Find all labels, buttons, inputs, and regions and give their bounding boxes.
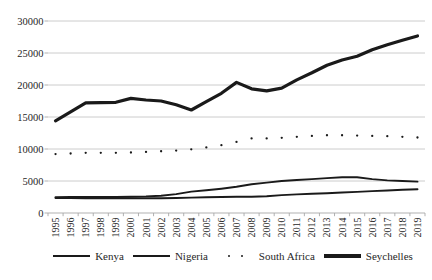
x-axis-label: 2003 bbox=[171, 218, 182, 238]
y-axis-label: 20000 bbox=[17, 80, 43, 91]
x-axis-label: 2010 bbox=[276, 218, 287, 238]
series-south-africa-dot bbox=[416, 136, 418, 138]
y-axis-label: 15000 bbox=[17, 112, 43, 123]
series-south-africa-dot bbox=[130, 151, 132, 153]
south-africa-line-swatch-icon bbox=[217, 254, 254, 258]
y-axis-label: 5000 bbox=[23, 176, 44, 187]
series-south-africa-dot bbox=[175, 149, 177, 151]
series-seychelles-line bbox=[56, 36, 418, 121]
x-axis-label: 2012 bbox=[306, 218, 317, 238]
legend-label-seychelles: Seychelles bbox=[366, 250, 413, 262]
x-axis-label: 1996 bbox=[65, 218, 76, 238]
legend-item-seychelles: Seychelles bbox=[324, 250, 413, 262]
x-axis-label: 1999 bbox=[110, 218, 121, 238]
x-axis-label: 2011 bbox=[291, 218, 302, 238]
series-south-africa-dot bbox=[341, 134, 343, 136]
series-south-africa-dot bbox=[235, 141, 237, 143]
x-axis-label: 1995 bbox=[50, 218, 61, 238]
legend-item-nigeria: Nigeria bbox=[133, 250, 208, 262]
series-south-africa-dot bbox=[85, 152, 87, 154]
series-south-africa-dot bbox=[326, 134, 328, 136]
x-axis-label: 2009 bbox=[261, 218, 272, 238]
series-south-africa-dot bbox=[356, 134, 358, 136]
line-chart-canvas: 0500010000150002000025000300001995199619… bbox=[0, 0, 432, 280]
series-south-africa-dot bbox=[69, 152, 71, 154]
x-axis-label: 2006 bbox=[216, 218, 227, 238]
series-south-africa-dot bbox=[100, 152, 102, 154]
x-axis-label: 2002 bbox=[156, 218, 167, 238]
line-chart: 0500010000150002000025000300001995199619… bbox=[0, 0, 432, 280]
series-south-africa-dot bbox=[311, 135, 313, 137]
series-south-africa-dot bbox=[190, 148, 192, 150]
x-axis-label: 2007 bbox=[231, 218, 242, 238]
series-south-africa-dot bbox=[386, 135, 388, 137]
legend-label-nigeria: Nigeria bbox=[175, 250, 208, 262]
legend-item-kenya: Kenya bbox=[53, 250, 124, 262]
series-nigeria-line bbox=[56, 177, 418, 197]
x-axis-label: 2008 bbox=[246, 218, 257, 238]
x-axis-label: 2017 bbox=[382, 218, 393, 238]
series-south-africa-dot bbox=[205, 146, 207, 148]
series-south-africa-dot bbox=[160, 150, 162, 152]
x-axis-label: 2018 bbox=[397, 218, 408, 238]
x-axis-label: 2004 bbox=[186, 218, 197, 238]
seychelles-line-swatch-icon bbox=[324, 254, 361, 258]
kenya-line-swatch-icon bbox=[53, 255, 90, 257]
x-axis-label: 2000 bbox=[125, 218, 136, 238]
y-axis-label: 30000 bbox=[17, 16, 43, 27]
series-south-africa-dot bbox=[250, 137, 252, 139]
nigeria-line-swatch-icon bbox=[133, 255, 170, 257]
series-south-africa-dot bbox=[266, 137, 268, 139]
x-axis-label: 2016 bbox=[367, 218, 378, 238]
series-south-africa-dot bbox=[371, 135, 373, 137]
x-axis-label: 2005 bbox=[201, 218, 212, 238]
series-south-africa-dot bbox=[54, 153, 56, 155]
series-south-africa-dot bbox=[145, 151, 147, 153]
series-south-africa-dot bbox=[115, 152, 117, 154]
legend-item-south-africa: South Africa bbox=[217, 250, 315, 262]
y-axis-label: 25000 bbox=[17, 48, 43, 59]
x-axis-label: 1998 bbox=[95, 218, 106, 238]
x-axis-label: 2019 bbox=[412, 218, 423, 238]
x-axis-label: 1997 bbox=[80, 218, 91, 238]
series-south-africa-dot bbox=[296, 136, 298, 138]
legend: KenyaNigeriaSouth AfricaSeychelles bbox=[0, 250, 432, 262]
legend-label-south-africa: South Africa bbox=[259, 250, 315, 262]
y-axis-label: 10000 bbox=[17, 144, 43, 155]
y-axis-label: 0 bbox=[38, 208, 43, 219]
x-axis-label: 2013 bbox=[321, 218, 332, 238]
x-axis-label: 2001 bbox=[141, 218, 152, 238]
legend-label-kenya: Kenya bbox=[95, 250, 124, 262]
series-south-africa-dot bbox=[401, 136, 403, 138]
x-axis-label: 2015 bbox=[352, 218, 363, 238]
x-axis-label: 2014 bbox=[337, 218, 348, 238]
series-south-africa-dot bbox=[220, 144, 222, 146]
series-south-africa-dot bbox=[281, 137, 283, 139]
